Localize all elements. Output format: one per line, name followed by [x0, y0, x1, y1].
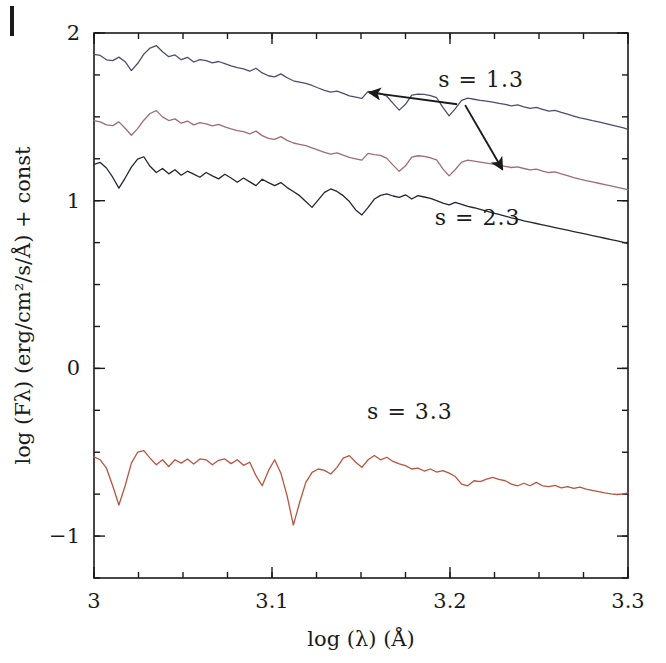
figure-container: 33.13.23.3−1012log (λ) (Å)log (Fλ) (erg/…	[0, 0, 666, 663]
x-axis-label: log (λ) (Å)	[307, 626, 414, 651]
y-tick-label: 0	[67, 356, 80, 380]
annotation-s-2-3: s = 2.3	[435, 205, 521, 230]
arrow-to-top-curve	[369, 92, 457, 104]
series-line	[94, 46, 628, 130]
scan-artifact-mark	[10, 6, 14, 36]
y-tick-label: 2	[67, 21, 80, 45]
annotation-s-3-3: s = 3.3	[367, 399, 453, 424]
spectra-plot: 33.13.23.3−1012log (λ) (Å)log (Fλ) (erg/…	[0, 0, 666, 663]
x-tick-label: 3	[87, 589, 100, 613]
y-tick-label: 1	[67, 189, 80, 213]
y-axis-label: log (Fλ) (erg/cm²/s/Å) + const	[10, 146, 35, 465]
plot-frame	[94, 33, 628, 578]
annotation-s-1-3: s = 1.3	[438, 67, 524, 92]
x-tick-label: 3.2	[433, 589, 466, 613]
series-line	[94, 111, 628, 190]
series-line	[94, 451, 628, 526]
arrow-to-middle-curve	[465, 105, 502, 169]
series-line	[94, 157, 628, 244]
y-tick-label: −1	[49, 524, 80, 548]
x-tick-label: 3.3	[611, 589, 644, 613]
x-tick-label: 3.1	[255, 589, 288, 613]
